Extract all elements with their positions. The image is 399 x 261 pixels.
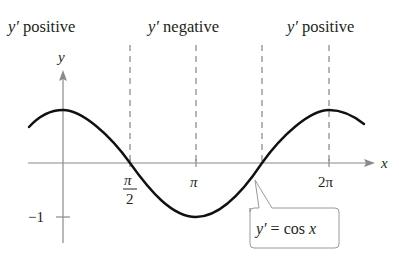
x-tick-label-pi-over-2: π 2 [123,172,137,207]
y-tick-label-minus-1: −1 [28,209,44,225]
graph-figure: y′ positive y′ negative y′ positive y x … [0,0,399,261]
dashed-dividers [130,45,329,163]
x-axis-label: x [380,155,388,171]
callout-derivative: y′ = cos x [250,180,339,248]
header-right: y′ positive [285,17,354,36]
svg-text:π: π [124,172,132,188]
callout-text: y′ = cos x [254,220,316,238]
y-axis-label: y [56,49,65,65]
svg-text:2: 2 [126,191,134,207]
callout-box [250,180,339,248]
header-middle: y′ negative [146,17,219,36]
x-tick-label-2pi: 2π [318,174,334,190]
header-left: y′ positive [6,17,75,36]
x-tick-label-pi: π [190,174,198,190]
